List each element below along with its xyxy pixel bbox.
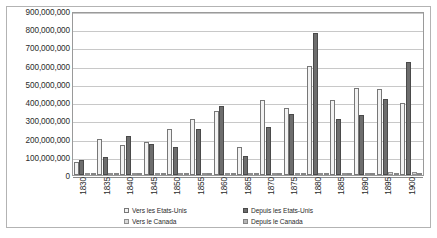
x-axis: 1830183518401845185018551860186518701875…	[72, 177, 424, 203]
bar	[417, 173, 422, 175]
legend-item-label: Depuis les Etats-Unis	[251, 207, 313, 214]
bar	[126, 136, 131, 175]
bar-group	[306, 13, 329, 175]
legend-item[interactable]: Depuis le Canada	[243, 218, 352, 225]
bar	[406, 62, 411, 175]
x-axis-tick: 1870	[260, 177, 283, 203]
bar	[108, 173, 113, 175]
bar-group	[330, 13, 353, 175]
x-axis-tick-label: 1875	[290, 177, 299, 195]
bar	[307, 66, 312, 175]
x-axis-tick: 1855	[189, 177, 212, 203]
bar	[120, 145, 125, 175]
bar	[254, 173, 259, 175]
bar	[359, 115, 364, 175]
bar-group	[213, 13, 236, 175]
x-axis-tick-label: 1835	[103, 177, 112, 195]
y-axis-tick-label: 300,000,000	[26, 117, 70, 126]
bar	[85, 173, 90, 175]
y-axis-tick-label: 0	[66, 172, 70, 181]
chart-container: 900,000,000800,000,000700,000,000600,000…	[0, 0, 437, 238]
bar	[318, 173, 323, 175]
bar	[347, 173, 352, 175]
bar	[370, 173, 375, 175]
bar	[231, 173, 236, 175]
x-axis-tick: 1895	[377, 177, 400, 203]
y-axis-tick-label: 800,000,000	[26, 26, 70, 35]
bar-group	[73, 13, 96, 175]
legend-item-label: Vers le Canada	[132, 218, 176, 225]
bar	[260, 100, 265, 175]
bar-group	[353, 13, 376, 175]
y-axis-tick-label: 500,000,000	[26, 80, 70, 89]
bar-group	[166, 13, 189, 175]
bar	[330, 100, 335, 175]
legend-swatch-icon	[243, 219, 248, 224]
bar	[365, 173, 370, 175]
bar	[266, 127, 271, 175]
bar	[313, 33, 318, 175]
bar	[237, 147, 242, 175]
x-axis-tick: 1890	[354, 177, 377, 203]
x-axis-tick-label: 1855	[197, 177, 206, 195]
bar	[394, 173, 399, 175]
bar	[284, 108, 289, 175]
bar	[190, 119, 195, 175]
x-axis-tick-label: 1865	[244, 177, 253, 195]
bar	[74, 162, 79, 175]
y-axis-tick-label: 700,000,000	[26, 44, 70, 53]
bar-group	[260, 13, 283, 175]
bar	[324, 173, 329, 175]
bar	[214, 111, 219, 175]
plot-area	[72, 12, 424, 176]
bar	[103, 157, 108, 175]
x-axis-tick-label: 1870	[267, 177, 276, 195]
bar	[97, 139, 102, 175]
legend-swatch-icon	[243, 208, 248, 213]
x-axis-tick-label: 1880	[314, 177, 323, 195]
bar-group	[190, 13, 213, 175]
x-axis-tick: 1875	[283, 177, 306, 203]
bar	[196, 129, 201, 175]
legend-item[interactable]: Vers les Etats-Unis	[124, 207, 233, 214]
bar	[173, 147, 178, 175]
bar	[277, 173, 282, 175]
x-axis-tick: 1880	[307, 177, 330, 203]
x-axis-tick-label: 1840	[126, 177, 135, 195]
bar	[144, 142, 149, 175]
bar	[219, 106, 224, 175]
x-axis-tick: 1845	[142, 177, 165, 203]
bar	[412, 172, 417, 175]
bar	[161, 173, 166, 175]
bar	[132, 173, 137, 175]
legend-item-label: Depuis le Canada	[251, 218, 303, 225]
x-axis-tick-label: 1890	[361, 177, 370, 195]
x-axis-tick: 1850	[166, 177, 189, 203]
bar	[149, 144, 154, 175]
bars-layer	[73, 13, 423, 175]
bar	[91, 173, 96, 175]
bar	[167, 129, 172, 175]
y-axis-tick-label: 400,000,000	[26, 99, 70, 108]
bar	[354, 88, 359, 175]
x-axis-tick-label: 1850	[173, 177, 182, 195]
bar	[114, 173, 119, 175]
x-axis-tick-label: 1860	[220, 177, 229, 195]
x-axis-tick: 1840	[119, 177, 142, 203]
bar	[388, 172, 393, 175]
bar	[178, 173, 183, 175]
bar	[243, 156, 248, 175]
bar-group	[400, 13, 423, 175]
legend-item-label: Vers les Etats-Unis	[132, 207, 187, 214]
x-axis-tick: 1865	[236, 177, 259, 203]
y-axis: 900,000,000800,000,000700,000,000600,000…	[8, 10, 70, 178]
y-axis-tick-label: 200,000,000	[26, 135, 70, 144]
bar	[225, 173, 230, 175]
legend-item[interactable]: Depuis les Etats-Unis	[243, 207, 352, 214]
bar	[79, 160, 84, 175]
bar	[207, 173, 212, 175]
y-axis-tick-label: 600,000,000	[26, 62, 70, 71]
bar	[383, 99, 388, 175]
x-axis-tick-label: 1885	[337, 177, 346, 195]
legend-item[interactable]: Vers le Canada	[124, 218, 233, 225]
